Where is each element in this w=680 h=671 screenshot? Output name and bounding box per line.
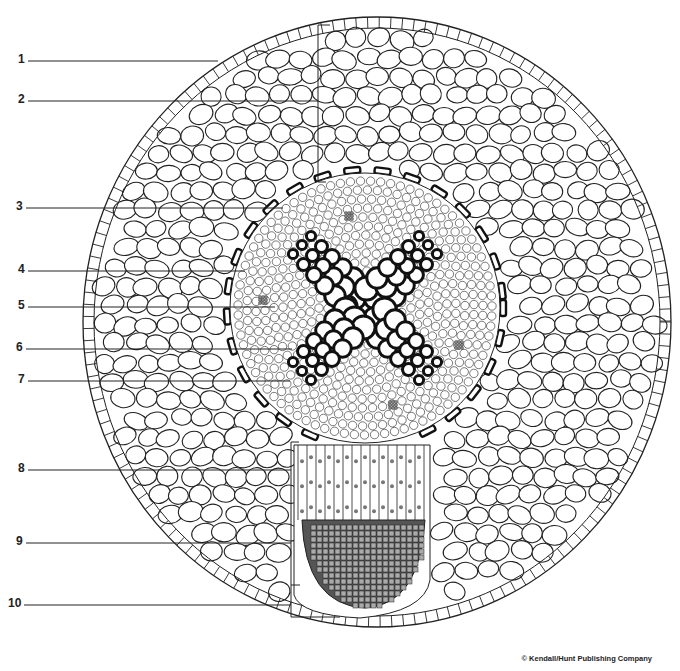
copyright-notice: © Kendall/Hunt Publishing Company (521, 654, 652, 663)
label-1: 1 (18, 53, 25, 65)
lateral-root-primordium (294, 445, 430, 618)
label-6: 6 (16, 341, 23, 353)
label-8: 8 (18, 462, 25, 474)
label-5: 5 (18, 299, 25, 311)
label-3: 3 (16, 200, 23, 212)
label-4: 4 (18, 263, 25, 275)
label-10: 10 (8, 597, 21, 609)
label-7: 7 (18, 373, 25, 385)
root-cross-section-diagram (0, 0, 680, 671)
label-2: 2 (18, 93, 25, 105)
label-9: 9 (16, 535, 23, 547)
